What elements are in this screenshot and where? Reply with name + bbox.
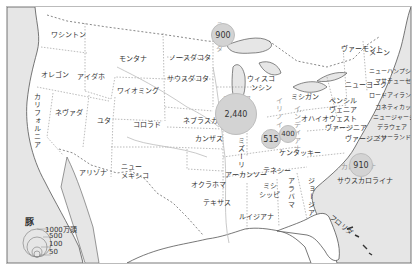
bubble-indiana: 400 (279, 125, 297, 143)
state-label-north-dakota: ノースダコタ (169, 54, 211, 62)
state-label-delaware: デラウェア (377, 123, 407, 131)
state-label-tennessee: テネシー (263, 167, 291, 175)
state-label-kentucky: ケンタッキー (279, 149, 321, 157)
state-label-new-jersey: ニュージャージー (373, 113, 412, 121)
bubble-illinois: 515 (261, 129, 281, 149)
state-label-new-mexico-1: ニュー (121, 163, 142, 171)
state-label-wyoming: ワイオミング (117, 87, 159, 95)
state-label-wisconsin-2: ンシン (251, 84, 272, 92)
state-label-idaho: アイダホ (77, 73, 105, 81)
bubble-north-carolina: 910 (349, 153, 373, 177)
bubble-minnesota: 900 (211, 23, 235, 47)
bubble-iowa: 2,440 (215, 93, 257, 135)
state-label-south-carolina: サウスカロライナ (337, 177, 393, 185)
state-label-south-dakota: サウスダコタ (167, 75, 209, 83)
state-label-california: カリフォルニア (33, 93, 41, 149)
state-label-montana: モンタナ (119, 55, 147, 63)
legend-label-500: 500 (49, 232, 62, 240)
state-label-texas: テキサス (203, 199, 231, 207)
state-label-pennsylvania-1: ペンシル (329, 97, 357, 105)
state-label-ohio: オハイオ (301, 115, 329, 123)
state-label-mississippi-1: ミシ (263, 182, 277, 190)
state-label-louisiana: ルイジアナ (239, 213, 274, 221)
state-label-west-virginia-2: ヴァージニア (325, 124, 367, 132)
state-label-connecticut: コネティカット (375, 103, 412, 111)
state-label-nevada: ネヴァダ (55, 109, 83, 117)
state-label-arizona: アリゾナ (79, 169, 107, 177)
state-label-kansas: カンザス (195, 135, 223, 143)
state-label-new-mexico-2: メキシコ (121, 172, 149, 180)
state-label-washington: ワシントン (51, 31, 86, 39)
state-label-west-virginia-1: ウェスト (329, 115, 357, 123)
state-label-illinois: イリノイ (275, 97, 283, 129)
state-label-nebraska: ネブラスカ (183, 117, 218, 125)
state-label-colorado: コロラド (133, 121, 161, 129)
state-label-rhode-island: ロードアイランド (369, 91, 412, 99)
state-label-georgia: ジョージア (307, 177, 315, 217)
state-label-maryland: メリーランド (375, 133, 411, 141)
state-label-massachusetts: マサチューセッツ (375, 77, 412, 85)
state-label-pennsylvania-2: ヴェニア (329, 106, 357, 114)
state-label-utah: ユタ (97, 117, 111, 125)
state-label-oklahoma: オクラホマ (191, 181, 226, 189)
state-label-wisconsin-1: ウィスコ (247, 75, 275, 83)
state-label-arkansas: アーカンソー (225, 171, 267, 179)
state-label-missouri: ミズーリ (237, 137, 245, 169)
state-label-new-hampshire: ニューハンプシャー (369, 67, 412, 75)
legend-label-50: 50 (49, 248, 58, 256)
state-label-alabama: アラバマ (287, 177, 295, 209)
state-label-oregon: オレゴン (41, 71, 69, 79)
state-label-michigan: ミシガン (291, 93, 319, 101)
state-label-maine: メーン (369, 49, 390, 57)
us-hog-map: ワシントン オレゴン カリフォルニア アイダホ ネヴァダ モンタナ ワイオミング… (6, 6, 412, 264)
legend-label-100: 100 (49, 240, 62, 248)
state-label-mississippi-2: シッピ (259, 191, 280, 199)
